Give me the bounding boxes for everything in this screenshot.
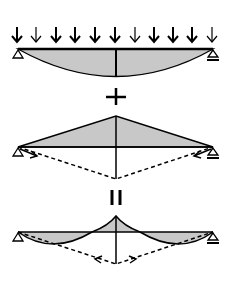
panel-prestress: [13, 116, 219, 179]
panel-uniform-load: [12, 27, 219, 77]
load-arrow-icon: [51, 27, 61, 42]
load-arrow-icon: [110, 27, 120, 42]
load-arrow-icon: [12, 27, 22, 42]
load-arrow-icon: [149, 27, 159, 42]
load-arrow-icon: [31, 27, 41, 42]
distributed-load-arrows: [12, 27, 217, 42]
load-arrow-icon: [90, 27, 100, 42]
load-arrow-icon: [187, 27, 197, 42]
superposition-diagram: + =: [0, 0, 235, 289]
cable-force-arrow-icon: [129, 256, 136, 263]
equals-operator-icon: [112, 190, 120, 205]
plus-operator-icon: [106, 88, 126, 105]
load-arrow-icon: [130, 27, 140, 42]
load-arrow-icon: [70, 27, 80, 42]
load-arrow-icon: [168, 27, 178, 42]
load-arrow-icon: [207, 27, 217, 42]
equals-operator-label: =: [0, 0, 9, 3]
panel-result: [13, 216, 219, 264]
